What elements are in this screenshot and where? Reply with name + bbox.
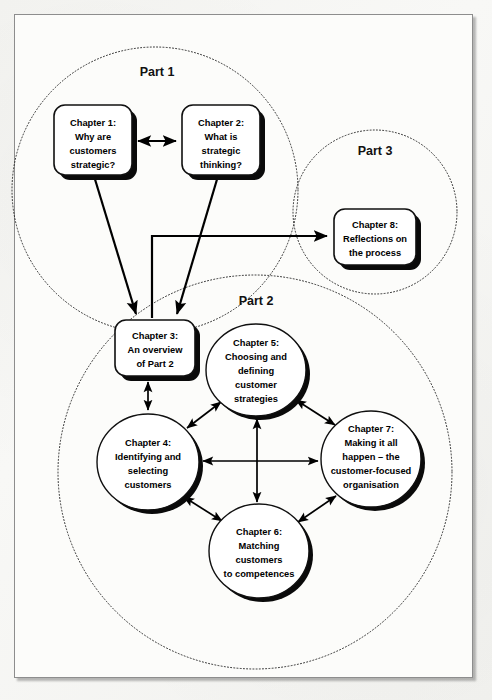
chapter8-label: Chapter 8: [352, 220, 398, 230]
chapter5-line2: Choosing and [225, 352, 287, 362]
node-chapter2[interactable]: Chapter 2: What is strategic thinking? [182, 105, 265, 180]
part-label-part2: Part 2 [239, 294, 274, 308]
chapter7-line4: customer-focused [331, 466, 412, 476]
part-label-part3: Part 3 [358, 144, 393, 158]
chapter8-line3: the process [349, 248, 401, 258]
node-chapter3[interactable]: Chapter 3: An overview of Part 2 [115, 320, 200, 381]
figure-page: Part 1 Part 2 Part 3 [0, 0, 492, 700]
book-structure-diagram: Part 1 Part 2 Part 3 [0, 0, 492, 700]
chapter1-label: Chapter 1: [70, 118, 116, 128]
chapter4-line4: customers [124, 480, 171, 490]
chapter5-line3: defining [238, 366, 274, 376]
connector-ch6-ch7 [298, 496, 336, 522]
chapter1-line4: strategic? [71, 160, 116, 170]
chapter2-label: Chapter 2: [198, 118, 244, 128]
chapter2-line4: thinking? [200, 160, 242, 170]
chapter7-label: Chapter 7: [348, 424, 394, 434]
chapter8-line2: Reflections on [343, 234, 407, 244]
node-chapter6[interactable]: Chapter 6: Matching customers to compete… [209, 504, 313, 602]
chapter5-line5: strategies [234, 394, 278, 404]
chapter1-line3: customers [69, 146, 116, 156]
chapter1-line2: Why are [75, 132, 111, 142]
chapter7-line3: happen – the [342, 452, 399, 462]
node-chapter8[interactable]: Chapter 8: Reflections on the process [334, 209, 421, 270]
chapter4-line2: Identifying and [115, 452, 181, 462]
connector-ch5-ch7 [296, 400, 335, 425]
node-chapter1[interactable]: Chapter 1: Why are customers strategic? [54, 105, 137, 180]
part-label-part1: Part 1 [140, 65, 175, 79]
chapter5-label: Chapter 5: [233, 338, 279, 348]
chapter3-label: Chapter 3: [132, 331, 178, 341]
chapter6-label: Chapter 6: [236, 527, 282, 537]
connector-ch4-ch5 [187, 402, 221, 428]
connector-ch2-ch3 [177, 176, 218, 314]
chapter7-line5: organisation [343, 480, 399, 490]
node-chapter4[interactable]: Chapter 4: Identifying and selecting cus… [97, 414, 203, 514]
chapter6-line2: Matching [239, 541, 280, 551]
chapter5-line4: customer [235, 380, 277, 390]
chapter2-line2: What is [204, 132, 237, 142]
chapter4-label: Chapter 4: [125, 438, 171, 448]
part-circle-part1 [12, 47, 298, 333]
node-chapter7[interactable]: Chapter 7: Making it all happen – the cu… [321, 411, 425, 511]
chapter6-circle[interactable] [209, 504, 309, 598]
chapter4-line3: selecting [128, 466, 169, 476]
part-labels-group: Part 1 Part 2 Part 3 [140, 65, 393, 308]
connector-ch4-ch6 [184, 497, 222, 521]
chapter2-line3: strategic [202, 146, 241, 156]
chapter6-line3: customers [235, 555, 282, 565]
node-chapter5[interactable]: Chapter 5: Choosing and defining custome… [206, 324, 310, 420]
chapter4-circle[interactable] [97, 414, 199, 510]
chapter3-line2: An overview [128, 345, 184, 355]
chapter3-line3: of Part 2 [136, 359, 173, 369]
chapter7-line2: Making it all [344, 438, 397, 448]
chapter6-line4: to competences [224, 569, 295, 579]
connector-ch1-ch3 [94, 176, 136, 314]
